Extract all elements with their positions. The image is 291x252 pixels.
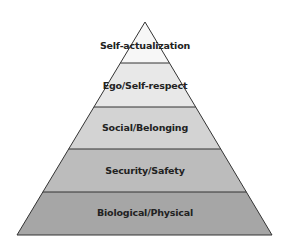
level-label-social: Social/Belonging (102, 122, 188, 133)
level-label-self-actualization: Self-actualization (100, 40, 191, 51)
level-label-security: Security/Safety (105, 165, 185, 176)
level-label-biological: Biological/Physical (97, 207, 193, 218)
needs-pyramid: Self-actualization Ego/Self-respect Soci… (0, 0, 291, 252)
level-label-ego: Ego/Self-respect (103, 80, 188, 91)
